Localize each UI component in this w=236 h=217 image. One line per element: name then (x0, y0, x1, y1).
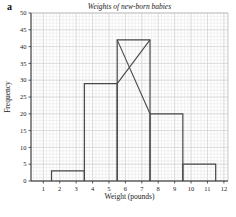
x-tick-label: 2 (58, 185, 61, 192)
y-tick-label: 50 (20, 9, 27, 16)
x-tick-label: 3 (75, 185, 78, 192)
y-tick-label: 15 (20, 127, 27, 134)
histogram-figure: a 12345678910111205101520253035404550 We… (0, 0, 236, 217)
x-axis-label: Weight (pounds) (104, 192, 155, 201)
x-tick-label: 12 (221, 185, 228, 192)
y-tick-label: 10 (20, 144, 27, 151)
y-tick-label: 5 (23, 160, 26, 167)
x-tick-label: 7 (140, 185, 144, 192)
y-tick-label: 0 (23, 177, 26, 184)
x-tick-label: 5 (107, 185, 110, 192)
x-tick-label: 4 (91, 185, 95, 192)
x-tick-label: 1 (42, 185, 45, 192)
y-tick-label: 25 (20, 93, 27, 100)
chart-title: Weights of new-born babies (88, 2, 171, 11)
x-tick-label: 10 (188, 185, 195, 192)
x-tick-label: 8 (157, 185, 160, 192)
histogram-chart: 12345678910111205101520253035404550 Weig… (0, 0, 236, 217)
x-tick-label: 9 (173, 185, 176, 192)
y-tick-label: 20 (20, 110, 27, 117)
x-tick-label: 6 (124, 185, 128, 192)
y-tick-label: 45 (20, 26, 27, 33)
grid-lines (31, 13, 228, 181)
y-axis-label: Frequency (3, 81, 12, 113)
y-tick-label: 35 (20, 60, 27, 67)
y-tick-label: 40 (20, 43, 27, 50)
y-tick-label: 30 (20, 76, 27, 83)
axes (29, 13, 229, 184)
x-tick-label: 11 (204, 185, 210, 192)
